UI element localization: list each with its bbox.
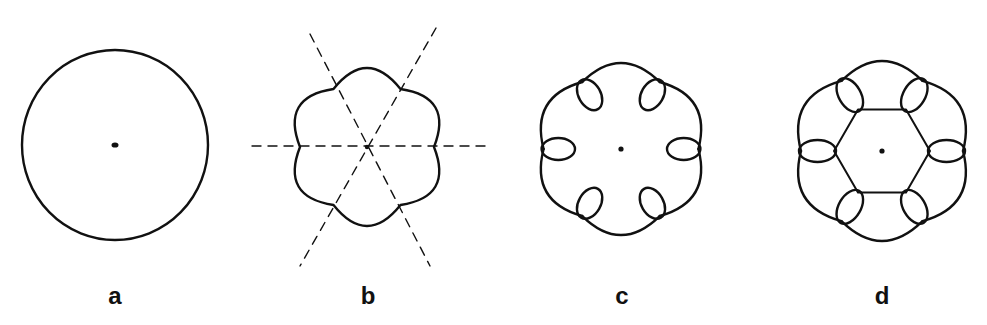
junction-loop — [572, 183, 608, 223]
figure-canvas: a b c d — [0, 0, 987, 325]
center-dot — [879, 148, 884, 153]
panel-c-looped-curve — [541, 63, 701, 235]
diagram-svg — [0, 0, 987, 325]
panel-d-looped-curve-hexagon — [798, 61, 966, 241]
panel-label-a: a — [108, 284, 121, 308]
panel-label-d: d — [875, 284, 890, 308]
junction-loop — [928, 140, 965, 162]
outer-lobe — [582, 216, 659, 235]
junction-loop — [635, 183, 671, 223]
junction-loop — [635, 75, 671, 115]
outer-lobe — [842, 61, 923, 81]
junction-loop — [542, 138, 575, 160]
panel-label-c: c — [615, 284, 628, 308]
outer-lobe — [582, 63, 659, 82]
junction-loop — [799, 140, 836, 162]
panel-a-circle — [22, 50, 208, 240]
center-dot — [618, 146, 623, 151]
panel-label-b: b — [361, 284, 376, 308]
junction-loop — [667, 138, 700, 160]
center-dot — [365, 145, 369, 149]
junction-loop — [572, 75, 608, 115]
panel-b-flower — [252, 28, 488, 266]
center-dot — [112, 142, 119, 147]
outer-lobe — [842, 221, 923, 241]
